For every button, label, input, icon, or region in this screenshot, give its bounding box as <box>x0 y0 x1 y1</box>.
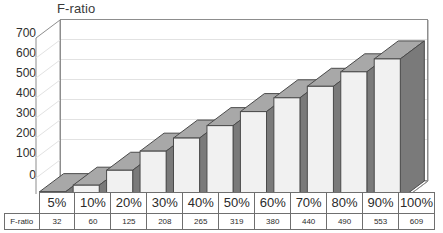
chart-container: F-ratio 700 600 500 400 300 200 100 0 <box>0 0 443 233</box>
value-cell-4: 265 <box>183 213 219 229</box>
value-cell-5: 319 <box>219 213 255 229</box>
bar-100% <box>374 41 424 194</box>
value-cell-1: 60 <box>75 213 111 229</box>
value-cell-8: 490 <box>327 213 363 229</box>
bars-group <box>0 14 443 194</box>
table-row-categories: 5% 10% 20% 30% 40% 50% 60% 70% 80% 90% 1… <box>5 193 435 214</box>
value-cell-0: 32 <box>39 213 75 229</box>
category-cell-9: 90% <box>363 193 399 214</box>
table-row-label: F-ratio <box>5 213 40 229</box>
value-cell-6: 380 <box>255 213 291 229</box>
category-cell-7: 70% <box>291 193 327 214</box>
category-cell-8: 80% <box>327 193 363 214</box>
category-cell-6: 60% <box>255 193 291 214</box>
category-cell-5: 50% <box>219 193 255 214</box>
category-cell-1: 10% <box>75 193 111 214</box>
table-row-values: F-ratio 32 60 125 208 265 319 380 440 49… <box>5 213 435 229</box>
value-cell-3: 208 <box>147 213 183 229</box>
value-cell-10: 609 <box>399 213 435 229</box>
plot-area <box>0 14 443 194</box>
category-cell-10: 100% <box>399 193 435 214</box>
category-cell-2: 20% <box>111 193 147 214</box>
value-cell-9: 553 <box>363 213 399 229</box>
value-cell-2: 125 <box>111 213 147 229</box>
category-cell-0: 5% <box>39 193 75 214</box>
data-table: 5% 10% 20% 30% 40% 50% 60% 70% 80% 90% 1… <box>4 192 435 230</box>
category-cell-4: 40% <box>183 193 219 214</box>
value-cell-7: 440 <box>291 213 327 229</box>
category-cell-3: 30% <box>147 193 183 214</box>
table-corner-cell <box>5 193 40 214</box>
